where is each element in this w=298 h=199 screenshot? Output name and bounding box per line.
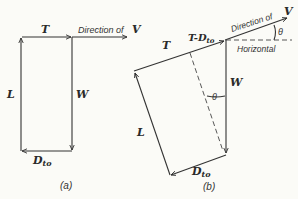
drag-label: Dto (32, 154, 52, 168)
velocity-label: V (132, 23, 142, 36)
caption-b: (b) (203, 181, 215, 192)
lift-label: L (136, 126, 145, 139)
drag-label: Dto (191, 165, 211, 179)
figure-b: T T-Dto Direction of V Horizontal θ θ W … (134, 5, 294, 192)
thrust-label: T (41, 23, 50, 36)
thrust-label: T (162, 39, 171, 52)
lift-label: L (6, 88, 15, 101)
angle-mid-label: θ (212, 92, 217, 102)
caption-a: (a) (60, 180, 72, 191)
force-diagram: T Direction of V L W Dto (a) T T-Dto Dir… (0, 0, 298, 199)
lift-vector (135, 73, 170, 175)
weight-label: W (76, 88, 90, 101)
direction-label: Direction of (78, 25, 125, 35)
weight-label: W (230, 76, 244, 89)
thrust-vector (134, 41, 224, 71)
figure-a: T Direction of V L W Dto (a) (6, 23, 142, 191)
angle-arc-top (274, 25, 276, 40)
velocity-label: V (284, 5, 294, 18)
dashed-perpendicular (190, 53, 223, 151)
net-thrust-label: T-Dto (188, 32, 215, 45)
horizontal-label: Horizontal (237, 44, 276, 54)
angle-top-label: θ (278, 27, 283, 37)
